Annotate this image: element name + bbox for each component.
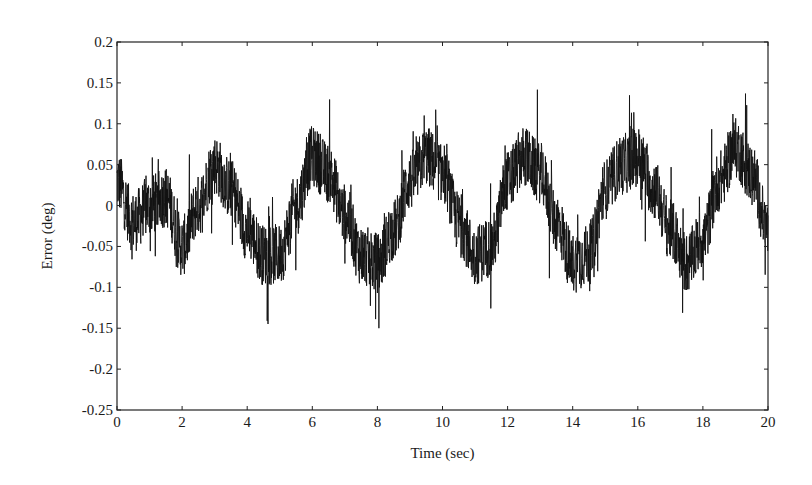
x-tick-label: 0 (113, 414, 121, 430)
y-tick-label: 0.2 (94, 34, 113, 50)
y-tick-label: 0.15 (87, 75, 113, 91)
x-tick-label: 2 (178, 414, 186, 430)
x-tick-label: 16 (630, 414, 646, 430)
x-tick-label: 4 (243, 414, 251, 430)
x-tick-label: 8 (374, 414, 382, 430)
error-time-plot: 02468101214161820 0.20.150.10.050-0.05-0… (0, 0, 812, 485)
error-signal-line (117, 90, 768, 329)
y-tick-label: -0.15 (82, 320, 113, 336)
y-tick-label: 0.1 (94, 116, 113, 132)
x-tick-label: 14 (565, 414, 581, 430)
y-tick-label: -0.1 (89, 279, 113, 295)
y-tick-label: 0.05 (87, 157, 113, 173)
x-tick-label: 10 (435, 414, 450, 430)
error-signal-trace (117, 90, 768, 329)
x-tick-label: 6 (309, 414, 317, 430)
x-axis-label: Time (sec) (410, 445, 474, 462)
x-tick-label: 20 (761, 414, 776, 430)
y-axis-label: Error (deg) (39, 202, 56, 269)
y-tick-label: -0.2 (89, 361, 113, 377)
y-tick-label: 0 (106, 198, 114, 214)
x-tick-label: 12 (500, 414, 515, 430)
y-tick-label: -0.05 (82, 238, 113, 254)
x-tick-label: 18 (695, 414, 710, 430)
y-tick-label: -0.25 (82, 402, 113, 418)
